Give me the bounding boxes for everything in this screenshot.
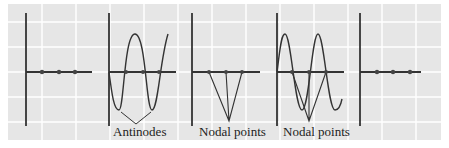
label-nodal-points-2: Nodal points [283, 124, 350, 139]
label-antinodes: Antinodes [113, 124, 166, 139]
standing-wave-diagram: Antinodes Nodal points Nodal points [0, 0, 449, 148]
label-nodal-points-1: Nodal points [199, 124, 266, 139]
